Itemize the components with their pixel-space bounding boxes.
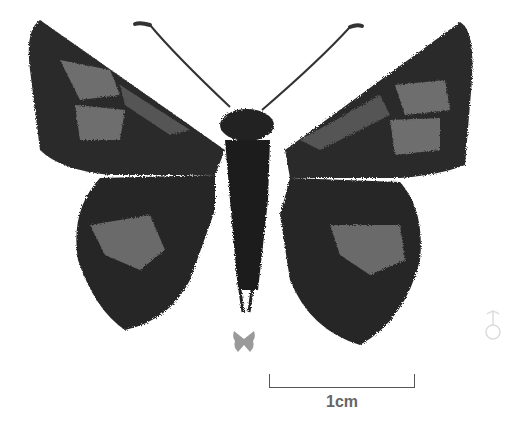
thorax-abdomen bbox=[225, 140, 270, 290]
scale-bar bbox=[269, 374, 415, 388]
scale-bar-label: 1cm bbox=[269, 393, 415, 411]
male-symbol-icon bbox=[482, 306, 504, 342]
head bbox=[220, 109, 274, 141]
antennae bbox=[135, 23, 362, 110]
butterfly-specimen bbox=[0, 0, 514, 442]
butterfly-upperside-icon bbox=[232, 331, 256, 353]
